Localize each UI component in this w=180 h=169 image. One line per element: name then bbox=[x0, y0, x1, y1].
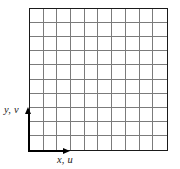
grid-cell bbox=[57, 122, 71, 136]
grid-cell bbox=[140, 122, 154, 136]
grid-cell bbox=[71, 51, 85, 65]
grid-cell bbox=[71, 108, 85, 122]
grid-cell bbox=[112, 108, 126, 122]
grid-cell bbox=[112, 94, 126, 108]
grid-cell bbox=[30, 23, 44, 37]
grid-cell bbox=[71, 65, 85, 79]
grid-cell bbox=[30, 80, 44, 94]
grid-cell bbox=[112, 122, 126, 136]
grid-cell bbox=[71, 94, 85, 108]
grid-cell bbox=[140, 80, 154, 94]
grid-cell bbox=[30, 9, 44, 23]
grid-cell bbox=[153, 51, 167, 65]
grid-cell bbox=[85, 65, 99, 79]
grid-cell bbox=[85, 37, 99, 51]
grid-cell bbox=[30, 37, 44, 51]
grid-cell bbox=[98, 23, 112, 37]
grid-cell bbox=[140, 23, 154, 37]
grid-cell bbox=[85, 122, 99, 136]
mesh-figure: y, v x, u bbox=[0, 0, 180, 169]
grid-cell bbox=[44, 51, 58, 65]
x-axis-line bbox=[28, 150, 66, 152]
grid-cell bbox=[153, 94, 167, 108]
grid-cell bbox=[30, 94, 44, 108]
mesh-grid bbox=[29, 8, 168, 151]
grid-cell bbox=[126, 94, 140, 108]
grid-cell bbox=[85, 136, 99, 150]
grid-cell bbox=[112, 136, 126, 150]
grid-cell bbox=[57, 108, 71, 122]
grid-cell bbox=[126, 51, 140, 65]
grid-cell bbox=[44, 136, 58, 150]
grid-cell bbox=[71, 9, 85, 23]
grid-cell bbox=[44, 65, 58, 79]
grid-cell bbox=[153, 9, 167, 23]
grid-cell bbox=[153, 23, 167, 37]
grid-cell bbox=[98, 136, 112, 150]
grid-cell bbox=[140, 37, 154, 51]
grid-cell bbox=[44, 122, 58, 136]
grid-cell bbox=[57, 80, 71, 94]
grid-cell bbox=[140, 51, 154, 65]
grid-cell bbox=[153, 37, 167, 51]
grid-cell bbox=[30, 108, 44, 122]
grid-cell bbox=[85, 80, 99, 94]
grid-cell bbox=[140, 136, 154, 150]
x-axis-arrowhead-icon bbox=[63, 148, 70, 154]
grid-cell bbox=[153, 65, 167, 79]
grid-cell bbox=[85, 51, 99, 65]
grid-cell bbox=[126, 23, 140, 37]
grid-cell bbox=[98, 51, 112, 65]
grid-lines bbox=[30, 9, 167, 150]
grid-cell bbox=[30, 65, 44, 79]
grid-cell bbox=[153, 122, 167, 136]
grid-cell bbox=[71, 37, 85, 51]
grid-cell bbox=[57, 37, 71, 51]
grid-cell bbox=[30, 136, 44, 150]
grid-cell bbox=[98, 108, 112, 122]
grid-cell bbox=[57, 94, 71, 108]
grid-cell bbox=[71, 122, 85, 136]
grid-cell bbox=[140, 94, 154, 108]
grid-cell bbox=[153, 80, 167, 94]
grid-cell bbox=[98, 9, 112, 23]
grid-cell bbox=[98, 37, 112, 51]
grid-cell bbox=[71, 80, 85, 94]
grid-cell bbox=[126, 65, 140, 79]
grid-cell bbox=[126, 122, 140, 136]
grid-cell bbox=[44, 9, 58, 23]
grid-cell bbox=[112, 9, 126, 23]
grid-cell bbox=[112, 37, 126, 51]
grid-cell bbox=[126, 37, 140, 51]
grid-cell bbox=[30, 51, 44, 65]
grid-cell bbox=[85, 23, 99, 37]
grid-cell bbox=[85, 9, 99, 23]
grid-cell bbox=[98, 122, 112, 136]
grid-cell bbox=[140, 108, 154, 122]
grid-cell bbox=[85, 108, 99, 122]
grid-cell bbox=[57, 23, 71, 37]
grid-cell bbox=[112, 51, 126, 65]
grid-cell bbox=[85, 94, 99, 108]
grid-cell bbox=[44, 94, 58, 108]
grid-cell bbox=[112, 65, 126, 79]
y-axis-label: y, v bbox=[4, 104, 19, 115]
grid-cell bbox=[71, 23, 85, 37]
grid-cell bbox=[57, 51, 71, 65]
grid-cell bbox=[98, 65, 112, 79]
grid-cell bbox=[44, 37, 58, 51]
grid-cell bbox=[71, 136, 85, 150]
grid-cell bbox=[44, 80, 58, 94]
grid-cell bbox=[44, 23, 58, 37]
grid-cell bbox=[98, 80, 112, 94]
y-axis-arrowhead-icon bbox=[25, 107, 31, 114]
grid-cell bbox=[140, 9, 154, 23]
x-axis-label: x, u bbox=[57, 154, 73, 165]
grid-cell bbox=[112, 23, 126, 37]
grid-cell bbox=[126, 136, 140, 150]
grid-cell bbox=[153, 136, 167, 150]
grid-cell bbox=[44, 108, 58, 122]
grid-cell bbox=[57, 9, 71, 23]
grid-cell bbox=[112, 80, 126, 94]
grid-cell bbox=[153, 108, 167, 122]
